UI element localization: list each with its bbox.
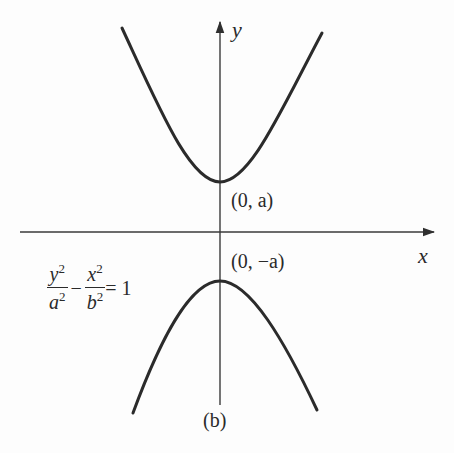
hyperbola-equation: y2 a2 − x2 b2 = 1 xyxy=(47,264,132,312)
upper-vertex-label: (0, a) xyxy=(231,190,273,210)
fraction-x2-over-b2: x2 b2 xyxy=(85,264,106,312)
minus-sign: − xyxy=(68,277,85,300)
equals-one: = 1 xyxy=(105,277,131,300)
y-axis-label: y xyxy=(232,19,242,41)
lower-branch-curve xyxy=(133,281,317,413)
figure-caption: (b) xyxy=(203,410,226,430)
fraction-y2-over-a2: y2 a2 xyxy=(47,264,68,312)
upper-branch-curve xyxy=(122,28,322,182)
lower-vertex-label: (0, −a) xyxy=(231,251,284,271)
hyperbola-figure: y x (0, a) (0, −a) y2 a2 − x2 b2 = 1 (b) xyxy=(0,0,454,453)
x-axis-label: x xyxy=(418,245,428,267)
hyperbola-plot xyxy=(0,0,454,453)
